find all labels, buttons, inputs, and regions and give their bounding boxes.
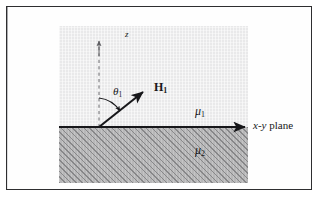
xy-plane-label: x-y plane [253, 119, 293, 131]
diagram-line-art [59, 26, 248, 183]
xy-italic-part: x-y [253, 119, 266, 131]
plane-word: plane [266, 119, 293, 131]
page-border-frame: z θ1 H1 μ1 μ2 x-y plane [6, 6, 312, 190]
figure-page: z θ1 H1 μ1 μ2 x-y plane [0, 0, 319, 197]
h-subscript: 1 [163, 86, 167, 95]
h-symbol: H [154, 80, 163, 94]
mu1-permeability-label: μ1 [195, 105, 205, 119]
angle-arc-theta1 [99, 98, 120, 111]
field-vector-h1-label: H1 [154, 81, 167, 95]
diagram-panel: z θ1 H1 μ1 μ2 [59, 26, 248, 183]
theta-subscript: 1 [118, 91, 122, 99]
mu2-permeability-label: μ2 [195, 144, 205, 158]
theta1-angle-label: θ1 [113, 86, 122, 99]
mu-upper-subscript: 1 [201, 110, 205, 119]
mu-lower-subscript: 2 [201, 149, 205, 158]
z-axis-label: z [125, 30, 129, 39]
